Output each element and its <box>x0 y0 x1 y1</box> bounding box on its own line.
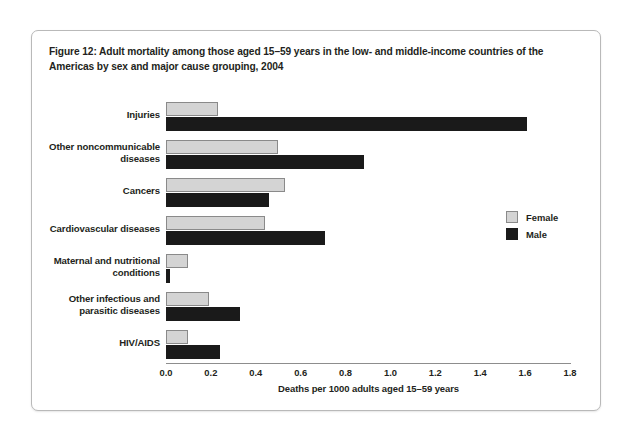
legend-label-male: Male <box>526 229 547 240</box>
x-tick-label-5: 1.0 <box>384 367 397 378</box>
bar-male-2 <box>166 193 269 207</box>
x-tick-label-8: 1.6 <box>519 367 532 378</box>
bar-female-3 <box>166 216 265 230</box>
x-tick-label-0: 0.0 <box>159 367 172 378</box>
category-label-5: Other infectious andparasitic diseases <box>10 293 160 318</box>
category-label-3: Cardiovascular diseases <box>10 223 160 235</box>
bar-female-5 <box>166 292 209 306</box>
bar-male-6 <box>166 345 220 359</box>
category-label-4: Maternal and nutritionalconditions <box>10 255 160 280</box>
figure-caption: Figure 12: Adult mortality among those a… <box>49 45 579 75</box>
legend-item-male: Male <box>506 228 558 240</box>
category-label-2: Cancers <box>10 185 160 197</box>
x-tick-label-2: 0.4 <box>249 367 262 378</box>
legend-label-female: Female <box>526 212 558 223</box>
category-label-6: HIV/AIDS <box>10 337 160 349</box>
chart-legend: Female Male <box>506 211 558 245</box>
x-axis-title: Deaths per 1000 adults aged 15–59 years <box>166 383 571 394</box>
bar-female-1 <box>166 140 278 154</box>
x-tick-label-9: 1.8 <box>563 367 576 378</box>
x-tick-label-6: 1.2 <box>429 367 442 378</box>
bar-male-5 <box>166 307 240 321</box>
category-axis-labels: InjuriesOther noncommunicablediseasesCan… <box>10 97 160 363</box>
bar-male-4 <box>166 269 170 283</box>
legend-swatch-female-icon <box>506 211 518 223</box>
bar-male-0 <box>166 117 527 131</box>
x-axis-ticks: 0.00.20.40.60.81.01.21.41.61.8 <box>166 367 571 381</box>
x-tick-label-3: 0.6 <box>294 367 307 378</box>
bar-female-0 <box>166 102 218 116</box>
legend-item-female: Female <box>506 211 558 223</box>
x-tick-label-7: 1.4 <box>474 367 487 378</box>
x-tick-label-4: 0.8 <box>339 367 352 378</box>
bar-male-3 <box>166 231 325 245</box>
figure-panel: Figure 12: Adult mortality among those a… <box>31 30 601 411</box>
bar-female-4 <box>166 254 188 268</box>
bar-male-1 <box>166 155 364 169</box>
bar-female-6 <box>166 330 188 344</box>
bar-female-2 <box>166 178 285 192</box>
category-label-1: Other noncommunicablediseases <box>10 141 160 166</box>
category-label-0: Injuries <box>10 109 160 121</box>
x-tick-label-1: 0.2 <box>204 367 217 378</box>
x-axis-line <box>166 363 571 364</box>
legend-swatch-male-icon <box>506 228 518 240</box>
